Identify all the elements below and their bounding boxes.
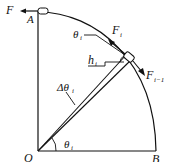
label-A: A [26, 13, 34, 25]
arrowhead-icon [20, 9, 26, 14]
label-O: O [24, 151, 33, 162]
label-theta-top-sub: i [80, 34, 82, 42]
ray-upper [38, 55, 126, 151]
label-theta-origin-sub: i [71, 144, 73, 152]
label-h: h [88, 53, 94, 67]
label-Fim1: F [145, 68, 154, 82]
label-delta-theta: Δθ [56, 81, 69, 93]
label-B: B [152, 152, 160, 162]
label-Fim1-sub: i−1 [154, 76, 164, 84]
ray-lower [38, 60, 131, 151]
label-theta-origin: θ [64, 138, 70, 150]
label-Fi-sub: i [120, 31, 122, 39]
label-F: F [5, 3, 14, 17]
quarter-arc-force-diagram: F A O B θ i F i F i−1 h i Δθ i θ i [0, 0, 177, 162]
theta-angle-arc-origin [52, 138, 56, 151]
quarter-arc-AB [38, 12, 156, 151]
label-theta-top: θ [73, 28, 79, 40]
label-Fi: F [111, 23, 120, 37]
label-h-sub: i [95, 60, 97, 68]
block-at-A [38, 8, 48, 14]
label-delta-theta-sub: i [72, 87, 74, 95]
